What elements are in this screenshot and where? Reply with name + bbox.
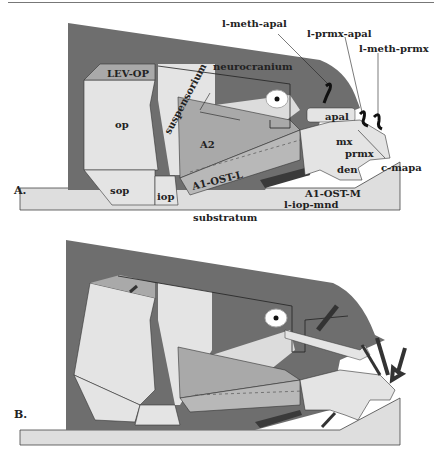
label-den: den <box>337 164 358 175</box>
fish-skull-diagram: A. neurocranium LEV-OP op sop iop suspen… <box>0 0 434 450</box>
label-c-mapa: c-mapa <box>381 162 422 173</box>
label-iop: iop <box>157 191 174 202</box>
arrow-shaft-2 <box>377 338 388 375</box>
arrow-shaft-3 <box>362 345 380 375</box>
panel-b <box>20 240 405 445</box>
arrow-down-left-icon <box>322 413 335 427</box>
l-meth-prmx-ligament <box>374 115 382 129</box>
arrow-down-right-icon <box>392 348 405 380</box>
label-prmx: prmx <box>345 148 375 159</box>
label-l-prmx-apal: l-prmx-apal <box>307 28 372 39</box>
label-l-meth-apal: l-meth-apal <box>222 18 287 29</box>
label-apal: apal <box>325 111 349 122</box>
pupil-icon <box>275 97 280 102</box>
label-l-iop-mnd: l-iop-mnd <box>284 199 338 210</box>
label-a1-ost-m: A1-OST-M <box>304 188 361 199</box>
label-op: op <box>115 119 129 130</box>
label-lev-op: LEV-OP <box>107 68 150 79</box>
pupil-icon-b <box>274 316 279 321</box>
label-mx: mx <box>336 136 354 147</box>
label-neurocranium: neurocranium <box>213 61 293 72</box>
label-substratum: substratum <box>193 212 258 223</box>
label-a2: A2 <box>199 139 215 150</box>
label-l-meth-prmx: l-meth-prmx <box>359 43 430 54</box>
panel-b-label: B. <box>14 408 27 421</box>
iop-b <box>135 405 180 425</box>
label-sop: sop <box>110 185 129 196</box>
panel-a-label: A. <box>13 184 26 197</box>
